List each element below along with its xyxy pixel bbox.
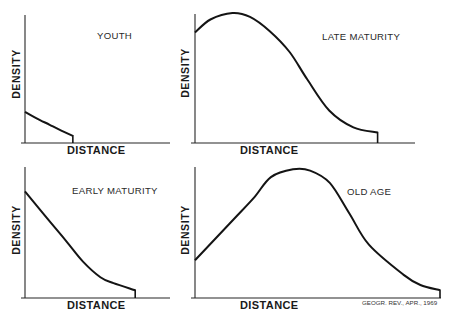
panel-youth: YOUTH DISTANCE DENSITY (10, 15, 171, 156)
panel-title: LATE MATURITY (322, 31, 400, 42)
panel-late-maturity: LATE MATURITY DISTANCE DENSITY (179, 13, 416, 156)
y-axis-label: DENSITY (179, 48, 191, 98)
panel-title: OLD AGE (347, 186, 391, 197)
density-curve (195, 169, 440, 291)
density-curve (25, 191, 135, 290)
panel-old-age: OLD AGE DISTANCE DENSITY (179, 167, 442, 311)
panel-early-maturity: EARLY MATURITY DISTANCE DENSITY (10, 167, 171, 311)
y-axis-label: DENSITY (10, 205, 22, 255)
density-distance-figure: YOUTH DISTANCE DENSITY LATE MATURITY DIS… (0, 0, 460, 322)
panel-title: YOUTH (97, 30, 132, 41)
source-credit: GEOGR. REV., APR., 1969 (362, 299, 438, 306)
x-axis-label: DISTANCE (240, 144, 299, 156)
density-curve (25, 112, 73, 136)
x-axis-label: DISTANCE (67, 144, 126, 156)
y-axis-label: DENSITY (10, 49, 22, 99)
y-axis-label: DENSITY (179, 205, 191, 255)
x-axis-label: DISTANCE (67, 299, 126, 311)
x-axis-label: DISTANCE (240, 299, 299, 311)
panel-title: EARLY MATURITY (72, 185, 158, 196)
